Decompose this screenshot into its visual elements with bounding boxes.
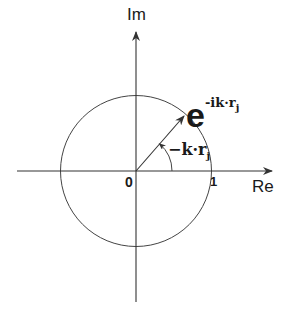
angle-label-subscript: j [207,150,211,161]
unit-tick-label: 1 [210,175,217,188]
phasor-exponent-subscript: j [236,102,240,113]
angle-label: −k·rj [168,142,210,158]
origin-label: 0 [125,175,133,189]
phasor-exponent: -ik·rj [205,95,239,110]
complex-plane-diagram [0,0,284,319]
phasor-base: e [186,96,205,134]
real-axis-label: Re [252,178,274,195]
imaginary-axis-label: Im [127,6,146,23]
phasor-exponent-text: -ik·r [205,95,236,110]
phasor-label: e-ik·rj [186,98,239,132]
angle-label-text: −k·r [168,140,207,159]
